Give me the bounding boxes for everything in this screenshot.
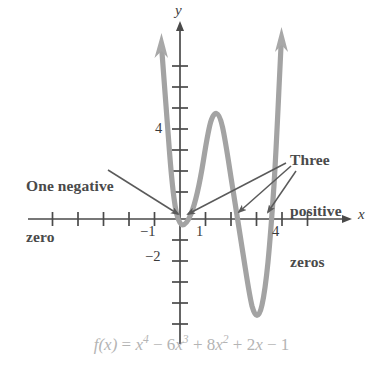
annotation-positive-line-1: Three — [290, 151, 342, 168]
y-axis-label: y — [175, 2, 182, 19]
equation-term4-operator: + — [229, 335, 247, 354]
equation-term3-operator: + — [189, 335, 207, 354]
figure-container: y x −1 1 4 4 −2 One negative zero Three … — [0, 0, 383, 371]
equation-term4-base: x — [255, 335, 263, 354]
arrow-negative-zero — [108, 170, 178, 214]
equation-term3-coefficient: 8 — [207, 335, 216, 354]
equation-term4-coefficient: 2 — [247, 335, 256, 354]
y-tick-label-minus-2: −2 — [145, 248, 160, 265]
annotation-positive-line-2: positive — [290, 202, 342, 219]
equation-term5-operator: − — [263, 335, 281, 354]
x-tick-label-4: 4 — [272, 223, 279, 240]
equation-term1-base: x — [135, 335, 143, 354]
x-tick-label-minus-1: −1 — [140, 223, 155, 240]
annotation-positive-line-3: zeros — [290, 253, 342, 270]
equation-fx: f(x) — [94, 335, 118, 354]
annotation-three-positive-zeros: Three positive zeros — [290, 117, 342, 304]
equation-term5-constant: 1 — [281, 335, 290, 354]
annotation-one-negative-zero: One negative zero — [26, 143, 114, 279]
equation-term2-operator: − — [149, 335, 167, 354]
equation-equals: = — [117, 335, 135, 354]
x-axis-label: x — [358, 206, 365, 223]
x-tick-label-1: 1 — [196, 223, 203, 240]
function-equation: f(x) = x4 − 6x3 + 8x2 + 2x − 1 — [0, 333, 383, 355]
annotation-negative-line-2: zero — [26, 228, 114, 245]
equation-term2-base: x — [175, 335, 183, 354]
equation-term3-base: x — [215, 335, 223, 354]
y-tick-label-4: 4 — [155, 120, 162, 137]
annotation-negative-line-1: One negative — [26, 177, 114, 194]
